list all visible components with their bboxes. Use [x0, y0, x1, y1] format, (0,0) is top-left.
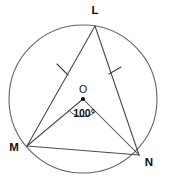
center-label-o: O	[79, 83, 87, 95]
chord-ln	[95, 26, 139, 155]
geometry-diagram-canvas: L M N O 100°	[0, 0, 171, 186]
center-point-dot	[81, 97, 85, 101]
geometry-figure: L M N O 100°	[0, 0, 171, 186]
vertex-label-n: N	[145, 156, 153, 168]
chord-mn	[27, 146, 139, 155]
angle-measure-label: 100°	[73, 107, 95, 119]
vertex-label-m: M	[9, 141, 19, 153]
tick-mark-ln-icon	[109, 67, 121, 74]
tick-mark-lm-icon	[57, 64, 68, 75]
vertex-label-l: L	[91, 4, 98, 16]
